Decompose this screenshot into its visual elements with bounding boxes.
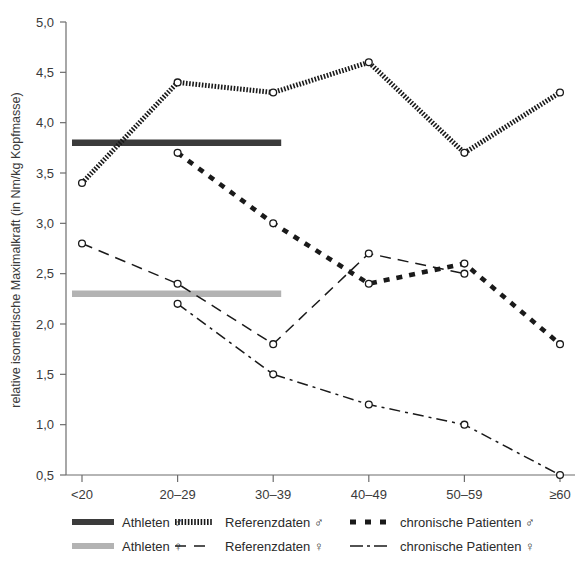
- y-tick-label: 2,0: [36, 317, 54, 332]
- data-point-marker: [365, 250, 372, 257]
- data-point-marker: [174, 280, 181, 287]
- series-5: [174, 300, 563, 478]
- series-layer: [72, 59, 563, 479]
- data-point-marker: [270, 341, 277, 348]
- data-point-marker: [79, 180, 86, 187]
- x-tick-label: 40–49: [351, 487, 387, 502]
- chart-legend: Athleten ♂Referenzdaten ♂chronische Pati…: [72, 515, 535, 554]
- data-point-marker: [365, 401, 372, 408]
- data-point-marker: [270, 371, 277, 378]
- data-point-marker: [270, 220, 277, 227]
- data-point-marker: [557, 89, 564, 96]
- x-tick-label: ≥60: [549, 487, 571, 502]
- legend-item[interactable]: Referenzdaten ♀: [175, 539, 324, 554]
- data-point-marker: [174, 149, 181, 156]
- x-tick-label: 50–59: [446, 487, 482, 502]
- legend-label: chronische Patienten ♀: [400, 539, 535, 554]
- data-point-marker: [79, 240, 86, 247]
- chart-container: relative isometrische Maximalkraft (in N…: [0, 0, 584, 569]
- data-point-marker: [461, 260, 468, 267]
- legend-item[interactable]: Athleten ♂: [72, 515, 183, 530]
- y-tick-label: 4,0: [36, 115, 54, 130]
- data-point-marker: [174, 300, 181, 307]
- legend-label: Athleten ♀: [122, 539, 183, 554]
- y-tick-label: 2,5: [36, 266, 54, 281]
- data-point-marker: [461, 149, 468, 156]
- series-line: [178, 153, 560, 344]
- legend-label: Referenzdaten ♂: [225, 515, 324, 530]
- y-tick-label: 0,5: [36, 468, 54, 483]
- y-tick-label: 1,0: [36, 417, 54, 432]
- series-line: [82, 62, 560, 183]
- data-point-marker: [461, 421, 468, 428]
- legend-item[interactable]: chronische Patienten ♀: [350, 539, 535, 554]
- y-axis-title: relative isometrische Maximalkraft (in N…: [9, 92, 23, 407]
- x-axis-ticks: <2020–2930–3940–4950–59≥60: [71, 475, 571, 502]
- x-tick-label: <20: [71, 487, 93, 502]
- y-tick-label: 4,5: [36, 65, 54, 80]
- data-point-marker: [270, 89, 277, 96]
- legend-item[interactable]: Athleten ♀: [72, 539, 183, 554]
- y-tick-label: 3,5: [36, 166, 54, 181]
- x-tick-label: 20–29: [160, 487, 196, 502]
- legend-label: Athleten ♂: [122, 515, 183, 530]
- y-tick-label: 1,5: [36, 367, 54, 382]
- y-tick-label: 3,0: [36, 216, 54, 231]
- data-point-marker: [174, 79, 181, 86]
- data-point-marker: [365, 59, 372, 66]
- data-point-marker: [461, 270, 468, 277]
- data-point-marker: [557, 341, 564, 348]
- series-2: [79, 59, 564, 187]
- legend-item[interactable]: Referenzdaten ♂: [175, 515, 324, 530]
- data-point-marker: [557, 472, 564, 479]
- series-line: [178, 304, 560, 475]
- legend-label: chronische Patienten ♂: [400, 515, 535, 530]
- line-chart-figure: relative isometrische Maximalkraft (in N…: [0, 0, 584, 569]
- legend-item[interactable]: chronische Patienten ♂: [350, 515, 535, 530]
- y-tick-label: 5,0: [36, 15, 54, 30]
- y-axis-ticks: 0,51,01,52,02,53,03,54,04,55,0: [36, 15, 66, 483]
- x-tick-label: 30–39: [255, 487, 291, 502]
- data-point-marker: [365, 280, 372, 287]
- legend-label: Referenzdaten ♀: [225, 539, 324, 554]
